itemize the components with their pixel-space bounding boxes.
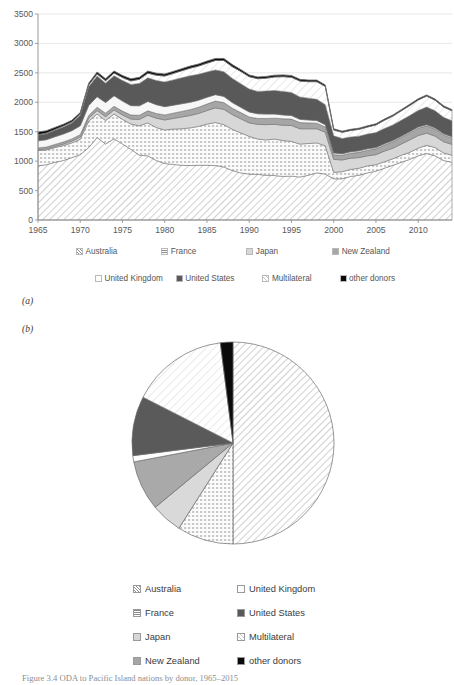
legend-label-australia: Australia (86, 247, 118, 256)
pie-legend-row-4: New Zealand other donors (0, 650, 454, 672)
pie-legend-label-australia: Australia (145, 584, 181, 594)
legend-label-new-zealand: New Zealand (342, 247, 390, 256)
pie-legend-row-1: Australia United Kingdom (0, 578, 454, 600)
legend-label-france: France (171, 247, 196, 256)
x-tick-label: 2000 (324, 225, 343, 235)
pie-legend-swatch-new-zealand (133, 657, 141, 665)
y-tick-label: 3500 (14, 9, 33, 19)
stacked-area-chart: 0500100015002000250030003500 19651970197… (0, 0, 454, 240)
pie-legend-item-united-states[interactable]: United States (237, 602, 305, 624)
pie-legend-row-2: France United States (0, 602, 454, 624)
pie-legend-swatch-united-kingdom (237, 585, 245, 593)
pie-legend-item-new-zealand[interactable]: New Zealand (133, 650, 237, 672)
y-tick-label: 1000 (14, 156, 33, 166)
x-axis-tick-labels: 1965197019751980198519901995200020052010 (28, 220, 428, 235)
legend-item-australia[interactable]: Australia (76, 243, 117, 259)
pie-chart-legend: Australia United Kingdom France United S… (0, 578, 454, 670)
pie-legend-item-multilateral[interactable]: Multilateral (237, 626, 294, 648)
legend-item-multilateral[interactable]: Multilateral (262, 270, 311, 286)
area-bands (38, 58, 452, 220)
pie-legend-item-australia[interactable]: Australia (133, 578, 237, 600)
y-tick-label: 2500 (14, 68, 33, 78)
pie-legend-swatch-france (133, 609, 141, 617)
pie-legend-label-multilateral: Multilateral (249, 632, 294, 642)
legend-swatch-japan (246, 248, 253, 255)
pie-legend-label-united-kingdom: United Kingdom (249, 584, 315, 594)
area-chart-legend: Australia France Japan New Zealand Unite… (0, 243, 454, 295)
pie-legend-item-japan[interactable]: Japan (133, 626, 237, 648)
x-tick-label: 1990 (240, 225, 259, 235)
pie-legend-row-3: Japan Multilateral (0, 626, 454, 648)
legend-swatch-france (161, 248, 168, 255)
legend-item-other-donors[interactable]: other donors (340, 270, 395, 286)
legend-swatch-australia (76, 248, 83, 255)
pie-legend-item-other-donors[interactable]: other donors (237, 650, 301, 672)
legend-label-other-donors: other donors (349, 274, 395, 283)
legend-item-united-kingdom[interactable]: United Kingdom (95, 270, 163, 286)
x-tick-label: 1985 (197, 225, 216, 235)
x-tick-label: 1975 (113, 225, 132, 235)
x-tick-label: 1965 (28, 225, 47, 235)
pie-legend-label-new-zealand: New Zealand (145, 656, 200, 666)
y-tick-label: 3000 (14, 38, 33, 48)
area-legend-row-2: United Kingdom United States Multilatera… (0, 270, 454, 286)
pie-legend-label-france: France (145, 608, 174, 618)
legend-swatch-united-kingdom (95, 275, 102, 282)
y-tick-label: 500 (19, 186, 34, 196)
area-chart-svg: 0500100015002000250030003500 19651970197… (0, 0, 454, 240)
pie-legend-item-united-kingdom[interactable]: United Kingdom (237, 578, 315, 600)
legend-item-united-states[interactable]: United States (176, 270, 235, 286)
y-tick-label: 0 (28, 215, 33, 225)
y-tick-label: 2000 (14, 97, 33, 107)
pie-legend-swatch-japan (133, 633, 141, 641)
pie-legend-label-united-states: United States (249, 608, 305, 618)
y-axis-tick-labels: 0500100015002000250030003500 (14, 9, 38, 225)
legend-label-multilateral: Multilateral (272, 274, 312, 283)
figure-caption: Figure 3.4 ODA to Pacific Island nations… (22, 673, 442, 683)
x-tick-label: 1970 (71, 225, 90, 235)
pie-chart-svg (108, 318, 358, 568)
pie-slice-australia (233, 342, 334, 544)
pie-legend-label-other-donors: other donors (249, 656, 301, 666)
legend-item-new-zealand[interactable]: New Zealand (332, 243, 390, 259)
pie-legend-swatch-multilateral (237, 633, 245, 641)
legend-item-france[interactable]: France (161, 243, 196, 259)
pie-legend-item-france[interactable]: France (133, 602, 237, 624)
x-tick-label: 2005 (366, 225, 385, 235)
panel-a-tag: (a) (22, 296, 33, 306)
legend-swatch-multilateral (262, 275, 269, 282)
legend-swatch-new-zealand (332, 248, 339, 255)
y-tick-label: 1500 (14, 127, 33, 137)
figure-root: 0500100015002000250030003500 19651970197… (0, 0, 454, 685)
legend-swatch-other-donors (340, 275, 347, 282)
pie-legend-label-japan: Japan (145, 632, 170, 642)
area-legend-row-1: Australia France Japan New Zealand (0, 243, 454, 259)
legend-item-japan[interactable]: Japan (246, 243, 278, 259)
pie-chart-panel (0, 318, 454, 580)
pie-slices (132, 342, 334, 544)
pie-legend-swatch-united-states (237, 609, 245, 617)
legend-label-united-kingdom: United Kingdom (105, 274, 163, 283)
legend-label-united-states: United States (185, 274, 234, 283)
x-tick-label: 1995 (282, 225, 301, 235)
pie-legend-swatch-australia (133, 585, 141, 593)
legend-label-japan: Japan (256, 247, 278, 256)
x-tick-label: 1980 (155, 225, 174, 235)
x-tick-label: 2010 (409, 225, 428, 235)
legend-swatch-united-states (176, 275, 183, 282)
pie-legend-swatch-other-donors (237, 657, 245, 665)
